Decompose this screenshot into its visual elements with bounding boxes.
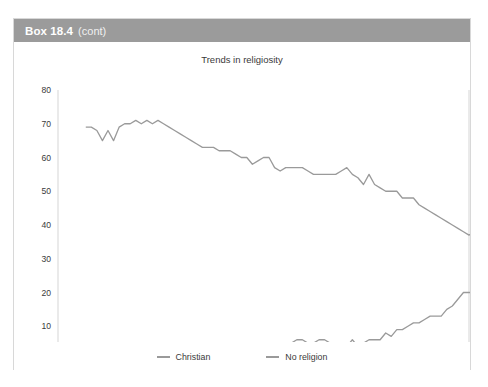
box-panel: Box 18.4 (cont) Trends in religiosity 01… bbox=[13, 18, 471, 370]
y-tick-40: 40 bbox=[41, 220, 51, 230]
y-tick-50: 50 bbox=[41, 186, 51, 196]
box-header-label: Box 18.4 bbox=[25, 25, 73, 37]
legend-item-christian[interactable]: Christian bbox=[157, 352, 211, 362]
y-tick-70: 70 bbox=[41, 119, 51, 129]
box-header-continuation: (cont) bbox=[78, 25, 106, 37]
y-tick-20: 20 bbox=[41, 288, 51, 298]
series-line-christian bbox=[86, 120, 470, 242]
legend-item-no-religion[interactable]: No religion bbox=[266, 352, 327, 362]
y-tick-30: 30 bbox=[41, 254, 51, 264]
legend-label-no-religion: No religion bbox=[285, 352, 327, 362]
legend-line-icon bbox=[157, 356, 170, 358]
line-chart-plot: 01020304050607080 1945195519651975198519… bbox=[14, 42, 470, 342]
chart-legend: Christian No religion bbox=[14, 352, 470, 362]
y-tick-80: 80 bbox=[41, 85, 51, 95]
chart-container: Trends in religiosity 01020304050607080 … bbox=[14, 42, 470, 370]
box-header: Box 18.4 (cont) bbox=[14, 19, 470, 42]
y-axis-tick-labels: 01020304050607080 bbox=[41, 85, 51, 342]
legend-label-christian: Christian bbox=[176, 352, 211, 362]
series-line-no-religion bbox=[86, 293, 470, 343]
legend-line-icon bbox=[266, 356, 279, 358]
y-tick-10: 10 bbox=[41, 321, 51, 331]
y-tick-60: 60 bbox=[41, 153, 51, 163]
